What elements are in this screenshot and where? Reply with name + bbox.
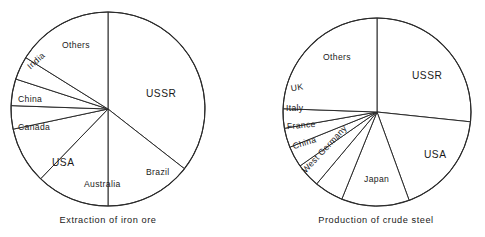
pie-slice-label-china: China <box>18 94 42 104</box>
pie-chart-extraction-of-iron-ore: USSRBrazilAustraliaUSACanadaChinaIndiaOt… <box>11 12 205 206</box>
chart-caption-production-of-crude-steel: Production of crude steel <box>268 215 484 225</box>
pie-slice-label-others: Others <box>62 40 90 50</box>
pie-chart-figure: USSRBrazilAustraliaUSACanadaChinaIndiaOt… <box>0 0 485 237</box>
pie-slice-others[interactable] <box>283 18 377 112</box>
pie-slice-label-canada: Canada <box>18 122 50 132</box>
pie-slice-label-uk: UK <box>290 81 304 93</box>
pie-chart-production-of-crude-steel: USSRUSAJapanWest GermanyChinaFranceItaly… <box>283 18 471 206</box>
chart-caption-extraction-of-iron-ore: Extraction of iron ore <box>0 215 216 225</box>
pie-slice-label-others: Others <box>323 52 351 62</box>
pie-slice-label-australia: Australia <box>84 179 121 189</box>
pie-slice-label-usa: USA <box>424 149 446 160</box>
pie-slice-label-usa: USA <box>52 157 74 168</box>
pie-slice-label-japan: Japan <box>364 174 389 184</box>
pie-slice-label-ussr: USSR <box>146 88 176 99</box>
pie-slice-label-italy: Italy <box>286 103 304 113</box>
pie-charts-canvas: USSRBrazilAustraliaUSACanadaChinaIndiaOt… <box>0 0 485 237</box>
pie-slice-label-brazil: Brazil <box>146 167 170 177</box>
pie-slice-label-ussr: USSR <box>412 70 442 81</box>
